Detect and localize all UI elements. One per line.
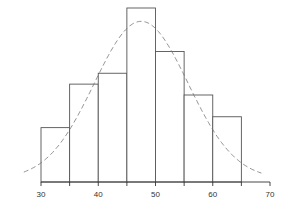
histogram-bar: [98, 73, 127, 182]
histogram-bars: [41, 8, 241, 182]
x-tick-label: 40: [94, 190, 103, 199]
histogram-bar: [127, 8, 156, 182]
histogram-bar: [70, 84, 99, 182]
x-tick-label: 50: [151, 190, 160, 199]
histogram-bar: [156, 52, 185, 183]
histogram-chart: 3040506070: [0, 0, 284, 206]
x-tick-label: 60: [208, 190, 217, 199]
histogram-bar: [184, 95, 213, 182]
x-tick-label: 70: [266, 190, 275, 199]
x-axis: 3040506070: [37, 182, 275, 199]
x-tick-label: 30: [37, 190, 46, 199]
